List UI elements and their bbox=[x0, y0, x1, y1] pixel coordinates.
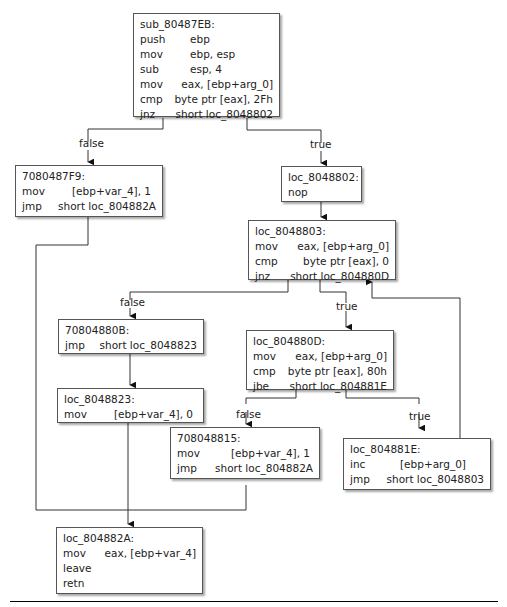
block-70804880B[interactable]: 70804880B: jmpshort loc_8048823 bbox=[58, 319, 204, 354]
edge-label-true: true bbox=[336, 300, 358, 312]
mnemonic: jmp bbox=[22, 199, 58, 214]
mnemonic: cmp bbox=[253, 364, 288, 379]
bottom-divider bbox=[10, 601, 498, 602]
mnemonic: jnz bbox=[140, 107, 176, 122]
instruction-row: jnzshort loc_804880D bbox=[255, 269, 389, 284]
operands: short loc_804882A bbox=[215, 461, 313, 476]
operands: eax, [ebp+arg_0] bbox=[297, 239, 389, 254]
operands: short loc_804881E bbox=[290, 379, 387, 394]
block-label: loc_804882A: bbox=[63, 531, 196, 546]
mnemonic: mov bbox=[63, 546, 105, 561]
operands: ebp, esp bbox=[190, 47, 235, 62]
mnemonic: push bbox=[140, 32, 190, 47]
instruction-row: cmpbyte ptr [eax], 0 bbox=[255, 254, 389, 269]
mnemonic: cmp bbox=[140, 92, 174, 107]
operands: short loc_804880D bbox=[290, 269, 389, 284]
block-708048815[interactable]: 708048815: mov[ebp+var_4], 1 jmpshort lo… bbox=[170, 427, 320, 479]
instruction-row: leave bbox=[63, 561, 196, 576]
instruction-row: moveax, [ebp+arg_0] bbox=[140, 77, 273, 92]
instruction-row: mov[ebp+var_4], 1 bbox=[177, 446, 313, 461]
block-loc_8048802[interactable]: loc_8048802: nop bbox=[281, 166, 362, 202]
instruction-row: pushebp bbox=[140, 32, 273, 47]
instruction-row: jmpshort loc_8048803 bbox=[350, 472, 484, 487]
operands: [ebp+arg_0] bbox=[400, 457, 466, 472]
operands: short loc_8048803 bbox=[387, 472, 484, 487]
block-label: loc_8048802: bbox=[288, 170, 355, 185]
operands: [ebp+var_4], 1 bbox=[72, 184, 151, 199]
operands: [ebp+var_4], 1 bbox=[231, 446, 310, 461]
instruction-row: moveax, [ebp+var_4] bbox=[63, 546, 196, 561]
block-loc_804881E[interactable]: loc_804881E: inc[ebp+arg_0] jmpshort loc… bbox=[343, 438, 491, 490]
instruction-row: mov[ebp+var_4], 0 bbox=[64, 407, 197, 422]
edge-label-false: false bbox=[79, 137, 104, 149]
operands: eax, [ebp+var_4] bbox=[105, 546, 196, 561]
instruction-row: mov[ebp+var_4], 1 bbox=[22, 184, 156, 199]
block-label: loc_804880D: bbox=[253, 334, 387, 349]
mnemonic: nop bbox=[288, 185, 308, 200]
operands: esp, 4 bbox=[190, 62, 222, 77]
instruction-row: cmpbyte ptr [eax], 80h bbox=[253, 364, 387, 379]
instruction-row: movebp, esp bbox=[140, 47, 273, 62]
instruction-row: jnzshort loc_8048802 bbox=[140, 107, 273, 122]
mnemonic: jmp bbox=[65, 338, 100, 353]
block-loc_804882A[interactable]: loc_804882A: moveax, [ebp+var_4] leave r… bbox=[56, 527, 203, 594]
edge-label-false: false bbox=[120, 296, 145, 308]
operands: [ebp+var_4], 0 bbox=[114, 407, 193, 422]
block-loc_8048823[interactable]: loc_8048823: mov[ebp+var_4], 0 bbox=[57, 388, 204, 423]
instruction-row: cmpbyte ptr [eax], 2Fh bbox=[140, 92, 273, 107]
edge-label-true: true bbox=[310, 138, 332, 150]
block-label: 7080487F9: bbox=[22, 169, 156, 184]
edge-label-true: true bbox=[409, 410, 431, 422]
mnemonic: mov bbox=[140, 47, 190, 62]
instruction-row: subesp, 4 bbox=[140, 62, 273, 77]
mnemonic: jmp bbox=[177, 461, 215, 476]
block-label: 708048815: bbox=[177, 431, 313, 446]
instruction-row: jmpshort loc_804882A bbox=[177, 461, 313, 476]
mnemonic: retn bbox=[63, 576, 84, 591]
mnemonic: jnz bbox=[255, 269, 290, 284]
block-7080487F9[interactable]: 7080487F9: mov[ebp+var_4], 1 jmpshort lo… bbox=[15, 165, 163, 217]
mnemonic: mov bbox=[177, 446, 231, 461]
instruction-row: inc[ebp+arg_0] bbox=[350, 457, 484, 472]
instruction-row: retn bbox=[63, 576, 196, 591]
mnemonic: mov bbox=[255, 239, 297, 254]
operands: byte ptr [eax], 2Fh bbox=[174, 92, 273, 107]
mnemonic: inc bbox=[350, 457, 400, 472]
operands: short loc_8048823 bbox=[100, 338, 197, 353]
instruction-row: jmpshort loc_8048823 bbox=[65, 338, 197, 353]
mnemonic: jbe bbox=[253, 379, 290, 394]
operands: eax, [ebp+arg_0] bbox=[295, 349, 387, 364]
operands: short loc_8048802 bbox=[176, 107, 273, 122]
block-label: loc_804881E: bbox=[350, 442, 484, 457]
block-sub_80487EB[interactable]: sub_80487EB: pushebp movebp, esp subesp,… bbox=[133, 13, 280, 117]
block-label: loc_8048823: bbox=[64, 392, 197, 407]
block-label: sub_80487EB: bbox=[140, 17, 273, 32]
mnemonic: mov bbox=[253, 349, 295, 364]
mnemonic: leave bbox=[63, 561, 92, 576]
mnemonic: sub bbox=[140, 62, 190, 77]
mnemonic: jmp bbox=[350, 472, 387, 487]
mnemonic: cmp bbox=[255, 254, 303, 269]
edge-label-false: false bbox=[236, 408, 261, 420]
block-loc_8048803[interactable]: loc_8048803: moveax, [ebp+arg_0] cmpbyte… bbox=[248, 220, 396, 280]
instruction-row: jbeshort loc_804881E bbox=[253, 379, 387, 394]
block-loc_804880D[interactable]: loc_804880D: moveax, [ebp+arg_0] cmpbyte… bbox=[246, 330, 394, 390]
operands: byte ptr [eax], 0 bbox=[303, 254, 389, 269]
mnemonic: mov bbox=[22, 184, 72, 199]
block-label: loc_8048803: bbox=[255, 224, 389, 239]
instruction-row: moveax, [ebp+arg_0] bbox=[253, 349, 387, 364]
operands: eax, [ebp+arg_0] bbox=[181, 77, 273, 92]
instruction-row: nop bbox=[288, 185, 355, 200]
operands: ebp bbox=[190, 32, 210, 47]
edge-7080487F9-to-loc_804882A bbox=[36, 200, 128, 510]
operands: byte ptr [eax], 80h bbox=[288, 364, 387, 379]
block-label: 70804880B: bbox=[65, 323, 197, 338]
operands: short loc_804882A bbox=[58, 199, 156, 214]
mnemonic: mov bbox=[64, 407, 114, 422]
instruction-row: jmpshort loc_804882A bbox=[22, 199, 156, 214]
edge-708048815-to-loc_804882A bbox=[128, 485, 246, 510]
mnemonic: mov bbox=[140, 77, 181, 92]
instruction-row: moveax, [ebp+arg_0] bbox=[255, 239, 389, 254]
